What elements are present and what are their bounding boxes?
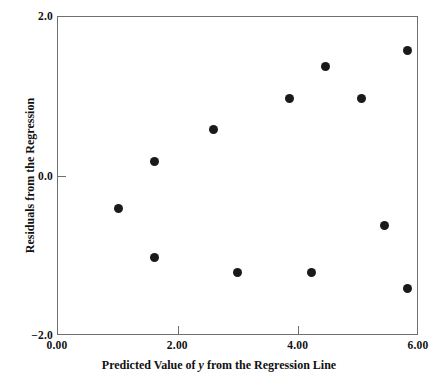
data-point xyxy=(403,46,412,55)
data-point xyxy=(233,268,242,277)
y-axis-tick-label: 0.0 xyxy=(38,170,53,182)
plot-frame xyxy=(57,16,418,335)
x-axis-title-text: Predicted Value of xyxy=(102,358,199,372)
data-point xyxy=(380,221,389,230)
x-axis-tick xyxy=(178,326,180,334)
x-axis-tick-label: 2.00 xyxy=(167,339,188,351)
data-point xyxy=(307,268,316,277)
x-axis-tick-label: 4.00 xyxy=(287,339,308,351)
x-axis-title: Predicted Value of y from the Regression… xyxy=(0,358,438,373)
data-point xyxy=(357,94,366,103)
y-axis-title: Residuals from the Regression xyxy=(20,16,40,335)
scatter-points-layer xyxy=(58,17,417,334)
x-axis-tick-label: 6.00 xyxy=(408,339,429,351)
data-point xyxy=(321,62,330,71)
data-point xyxy=(150,253,159,262)
y-axis-tick-label: 2.0 xyxy=(38,10,53,22)
residual-plot-figure: 0.002.004.006.00 2.00.0−2.0 Predicted Va… xyxy=(0,0,438,381)
data-point xyxy=(114,204,123,213)
x-axis-tick xyxy=(298,326,300,334)
data-point xyxy=(209,125,218,134)
x-axis-title-text-2: from the Regression Line xyxy=(204,358,336,372)
data-point xyxy=(403,284,412,293)
y-axis-tick xyxy=(58,176,66,178)
data-point xyxy=(150,157,159,166)
data-point xyxy=(285,94,294,103)
